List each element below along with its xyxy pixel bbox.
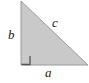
side-label-a: a xyxy=(45,66,52,79)
right-triangle-figure: b c a xyxy=(0,0,89,83)
side-label-c: c xyxy=(52,16,58,29)
side-label-b: b xyxy=(8,28,15,41)
triangle-body xyxy=(21,1,88,65)
